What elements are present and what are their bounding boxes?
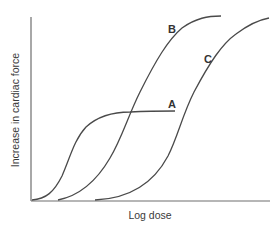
- x-axis-label: Log dose: [128, 209, 171, 221]
- dose-response-chart: A B C Log dose Increase in cardiac force: [0, 0, 280, 227]
- curve-b: [58, 16, 221, 200]
- curve-a: [32, 111, 175, 200]
- y-axis-label: Increase in cardiac force: [9, 53, 21, 168]
- curve-c: [95, 18, 269, 200]
- curve-c-label: C: [204, 53, 212, 65]
- curve-b-label: B: [168, 23, 176, 35]
- curve-a-label: A: [168, 98, 176, 110]
